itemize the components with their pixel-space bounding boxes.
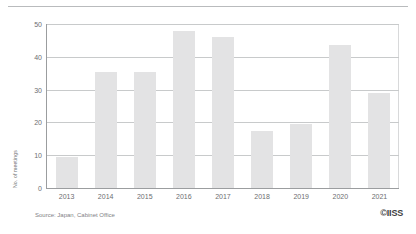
xtick-label-2016: 2016	[176, 193, 192, 200]
gridline-0: 0	[47, 188, 399, 189]
bar-2016[interactable]	[173, 31, 195, 188]
y-axis-title: No. of meetings	[10, 24, 21, 188]
bar-slot: 2018	[243, 24, 282, 188]
xtick-label-2013: 2013	[59, 193, 75, 200]
xtick-label-2021: 2021	[372, 193, 388, 200]
xtick-label-2018: 2018	[254, 193, 270, 200]
bar-2019[interactable]	[290, 124, 312, 188]
chart-figure: No. of meetings 50 40 30 20 10 0 2013	[0, 0, 416, 234]
xtick-label-2019: 2019	[293, 193, 309, 200]
xtick-label-2014: 2014	[98, 193, 114, 200]
bar-slot: 2021	[360, 24, 399, 188]
ytick-label-10: 10	[34, 152, 42, 159]
xtick-label-2020: 2020	[333, 193, 349, 200]
iiss-logo: ©IISS	[380, 209, 403, 218]
bar-slot: 2013	[47, 24, 86, 188]
xtick-label-2015: 2015	[137, 193, 153, 200]
top-divider-rule	[8, 6, 408, 7]
ytick-label-30: 30	[34, 86, 42, 93]
bar-slot: 2014	[86, 24, 125, 188]
bar-slot: 2019	[282, 24, 321, 188]
ytick-label-40: 40	[34, 53, 42, 60]
bar-slot: 2015	[125, 24, 164, 188]
bar-2018[interactable]	[251, 131, 273, 188]
xtick-label-2017: 2017	[215, 193, 231, 200]
bar-slot: 2016	[164, 24, 203, 188]
bar-2014[interactable]	[95, 72, 117, 188]
bar-2021[interactable]	[368, 93, 390, 188]
bar-slot: 2017	[203, 24, 242, 188]
ytick-label-20: 20	[34, 119, 42, 126]
ytick-label-0: 0	[38, 185, 42, 192]
bar-slot: 2020	[321, 24, 360, 188]
ytick-label-50: 50	[34, 21, 42, 28]
plot-area: 50 40 30 20 10 0 2013 2014	[46, 24, 399, 189]
bar-series: 2013 2014 2015 2016 2017 2018	[47, 24, 399, 188]
bar-2015[interactable]	[134, 72, 156, 188]
bar-2020[interactable]	[329, 45, 351, 188]
source-note: Source: Japan, Cabinet Office	[35, 212, 115, 218]
bar-2013[interactable]	[56, 157, 78, 188]
bar-2017[interactable]	[212, 37, 234, 188]
